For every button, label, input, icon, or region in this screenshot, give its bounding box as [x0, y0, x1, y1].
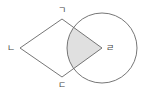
geometry-diagram: ㄱ ㄴ ㄷ ㄹ: [0, 0, 147, 92]
vertex-label-bottom: ㄷ: [58, 80, 66, 90]
shaded-intersection: [20, 19, 102, 77]
vertex-label-top: ㄱ: [58, 5, 66, 15]
vertex-label-right: ㄹ: [106, 43, 114, 53]
vertex-label-left: ㄴ: [7, 43, 15, 53]
